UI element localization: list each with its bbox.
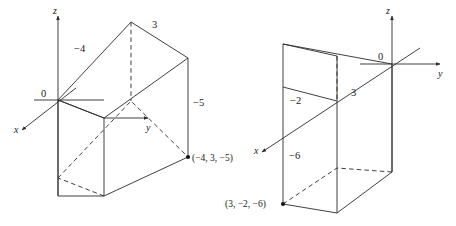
left-x-axis-label: x [13,124,19,135]
figure-canvas: z x y 0 −4 3 −5 (−4, 3, −5) [0,0,456,226]
left-box-bottom-visible-edges [58,157,188,196]
left-box-top-face [58,22,188,118]
left-point-label: (−4, 3, −5) [192,153,233,164]
left-y-extent-label: 3 [152,19,157,30]
right-point-marker [281,202,285,206]
left-z-axis-label: z [52,5,57,16]
left-z-extent-label: −5 [193,97,204,108]
right-box-top-back-edge [283,44,392,64]
left-y-axis-label: y [145,122,151,133]
right-y-axis-label: y [437,68,443,79]
right-origin-label: 0 [378,51,383,62]
left-origin-label: 0 [41,88,46,99]
right-x-extent-label: 3 [351,87,356,98]
left-point-marker [186,155,190,159]
left-box-bottom-diagonal [58,178,104,196]
right-diagram: z x y 0 −2 3 −6 (3, −2, −6) [225,5,443,213]
left-diagram: z x y 0 −4 3 −5 (−4, 3, −5) [13,5,233,196]
right-x-axis [262,48,420,152]
right-y-extent-label: −2 [290,95,301,106]
right-z-extent-label: −6 [289,150,300,161]
right-z-axis-label: z [385,5,390,16]
right-point-label: (3, −2, −6) [225,199,266,210]
right-x-axis-label: x [253,145,259,156]
right-box-bottom-visible [283,172,392,213]
figure-root: z x y 0 −4 3 −5 (−4, 3, −5) [0,0,456,226]
left-x-extent-label: −4 [74,43,86,54]
right-box-bottom-hidden [283,168,392,204]
left-x-axis [22,88,76,130]
